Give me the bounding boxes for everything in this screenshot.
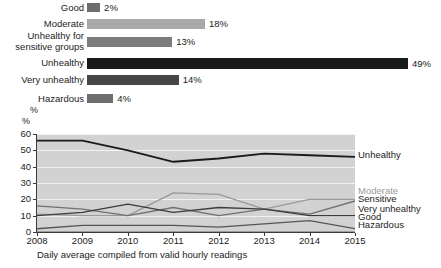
y-axis-tick-mark (33, 232, 36, 233)
x-axis-tick-label: 2011 (156, 236, 190, 246)
y-axis-tick-label: 50 (0, 145, 31, 155)
y-axis-tick-mark (33, 150, 36, 151)
x-axis-tick-mark (219, 233, 220, 236)
x-axis-tick-label: 2013 (247, 236, 281, 246)
bar-row: Very unhealthy14% (0, 75, 441, 85)
bar-row: Moderate18% (0, 19, 441, 29)
aqi-figure: Good2%Moderate18%Unhealthy for sensitive… (0, 0, 441, 268)
bar-label: Unhealthy for sensitive groups (0, 31, 84, 52)
bar-chart-axis-unit: % (30, 105, 38, 115)
bar-value-label: 14% (183, 75, 202, 85)
x-axis-tick-mark (264, 233, 265, 236)
bar-row: Good2% (0, 3, 441, 12)
bar-row: Unhealthy for sensitive groups13% (0, 37, 441, 47)
x-axis-tick-mark (37, 233, 38, 236)
bar-rect (87, 37, 172, 47)
bar-label: Good (0, 3, 84, 14)
y-axis-tick-mark (33, 134, 36, 135)
y-axis-tick-label: 40 (0, 162, 31, 172)
bar-value-label: 18% (209, 19, 228, 29)
bar-rect (87, 3, 100, 12)
y-axis-tick-mark (33, 183, 36, 184)
series-line-sensitive (37, 201, 355, 216)
bar-value-label: 49% (412, 59, 431, 69)
x-axis-tick-label: 2014 (293, 236, 327, 246)
x-axis-tick-label: 2009 (65, 236, 99, 246)
x-axis-tick-label: 2010 (111, 236, 145, 246)
bar-rect (87, 75, 179, 85)
y-axis-tick-label: 60 (0, 129, 31, 139)
y-axis-tick-label: 20 (0, 194, 31, 204)
bar-label: Unhealthy (0, 58, 84, 69)
x-axis-tick-mark (310, 233, 311, 236)
bar-value-label: 4% (117, 94, 131, 104)
chart-caption: Daily average compiled from valid hourly… (37, 249, 247, 260)
y-axis-tick-label: 30 (0, 178, 31, 188)
x-axis-tick-label: 2012 (202, 236, 236, 246)
bar-chart: Good2%Moderate18%Unhealthy for sensitive… (0, 0, 441, 116)
legend-item-unhealthy: Unhealthy (358, 150, 401, 160)
bar-value-label: 13% (176, 37, 195, 47)
legend-item-hazardous: Hazardous (358, 220, 404, 230)
x-axis-line (37, 232, 355, 233)
bar-label: Very unhealthy (0, 75, 84, 86)
x-axis-tick-mark (355, 233, 356, 236)
bar-rect (87, 19, 205, 29)
x-axis-tick-mark (128, 233, 129, 236)
y-axis-tick-mark (33, 167, 36, 168)
x-axis-tick-label: 2015 (338, 236, 372, 246)
bar-value-label: 2% (104, 3, 118, 13)
bar-rect (87, 58, 408, 69)
bar-label: Hazardous (0, 94, 84, 105)
series-line-good (37, 221, 355, 229)
x-axis-tick-mark (173, 233, 174, 236)
y-axis-unit-label: % (22, 116, 30, 126)
x-axis-tick-label: 2008 (20, 236, 54, 246)
y-axis-tick-mark (33, 216, 36, 217)
bar-row: Hazardous4% (0, 94, 441, 103)
y-axis-tick-mark (33, 199, 36, 200)
line-chart: % 6050403020100 200820092010201120122013… (0, 116, 441, 268)
bar-rect (87, 94, 113, 103)
bar-row: Unhealthy49% (0, 58, 441, 69)
bar-label: Moderate (0, 19, 84, 30)
x-axis-tick-mark (82, 233, 83, 236)
y-axis-tick-label: 10 (0, 211, 31, 221)
series-line-unhealthy (37, 141, 355, 162)
series-lines (37, 134, 355, 232)
